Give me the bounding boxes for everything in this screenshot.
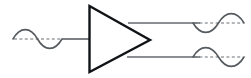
diagram-canvas bbox=[0, 0, 251, 78]
input-waveform-group bbox=[13, 30, 62, 49]
output-waveform-top-group bbox=[193, 14, 244, 33]
output-waveform-bottom-group bbox=[193, 48, 244, 67]
amplifier-triangle bbox=[90, 6, 151, 72]
signal-amplifier-diagram bbox=[0, 0, 251, 78]
